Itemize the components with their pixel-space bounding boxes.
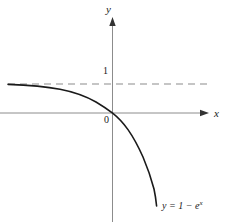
y-axis-arrow-icon	[109, 17, 115, 26]
function-curve	[8, 84, 157, 206]
plot-canvas	[0, 0, 227, 222]
origin-label: 0	[104, 115, 109, 125]
x-axis-arrow-icon	[200, 110, 209, 116]
curve-equation-label: y = 1 − ex	[162, 201, 202, 211]
x-axis-label: x	[214, 108, 219, 119]
y-axis-label: y	[106, 4, 111, 15]
function-graph-figure: y x 1 0 y = 1 − ex	[0, 0, 227, 222]
equation-exponent-text: x	[199, 199, 202, 207]
equation-main-text: y = 1 − e	[162, 200, 199, 211]
y-tick-label-1: 1	[103, 66, 108, 76]
